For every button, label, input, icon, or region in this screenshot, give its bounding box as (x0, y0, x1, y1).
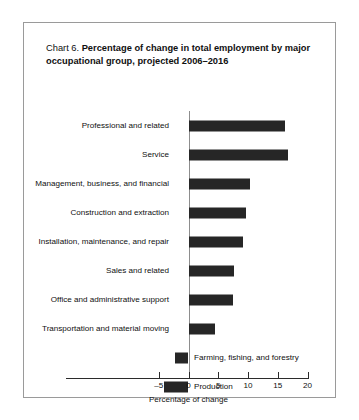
category-label: Farming, fishing, and forestry (194, 353, 299, 363)
bar-row: Office and administrative support (24, 285, 337, 314)
bar (189, 265, 234, 276)
plot-area: Percentage of change Professional and re… (24, 23, 337, 399)
bar-row: Sales and related (24, 256, 337, 285)
bar (189, 178, 250, 189)
x-axis-tick (218, 372, 219, 378)
category-label: Professional and related (82, 121, 169, 131)
x-axis-tick (248, 372, 249, 378)
bar (189, 120, 286, 131)
x-axis-tick (278, 372, 279, 378)
bar-row: Installation, maintenance, and repair (24, 227, 337, 256)
x-axis-tick-label: 5 (216, 381, 221, 390)
bar (175, 352, 188, 363)
chart-figure: Chart 6. Percentage of change in total e… (23, 22, 336, 398)
x-axis-tick-label: 15 (273, 381, 282, 390)
category-label: Management, business, and financial (35, 179, 169, 189)
bar (189, 323, 216, 334)
bar-row: Service (24, 140, 337, 169)
x-axis-tick (308, 372, 309, 378)
x-axis-tick-label: 10 (243, 381, 252, 390)
x-axis-tick (159, 372, 160, 378)
bar-row: Production (24, 372, 337, 401)
category-label: Production (194, 382, 233, 392)
x-axis-tick-label: 0 (186, 381, 191, 390)
x-axis-tick (189, 372, 190, 378)
bar (189, 207, 246, 218)
category-label: Installation, maintenance, and repair (39, 237, 169, 247)
category-label: Sales and related (106, 266, 169, 276)
category-label: Transportation and material moving (42, 324, 169, 334)
bar-row: Transportation and material moving (24, 314, 337, 343)
x-axis-tick-label: 20 (303, 381, 312, 390)
bar (189, 236, 244, 247)
bar-row: Construction and extraction (24, 198, 337, 227)
category-label: Service (142, 150, 169, 160)
category-label: Office and administrative support (51, 295, 169, 305)
bar-row: Professional and related (24, 111, 337, 140)
bar (189, 149, 288, 160)
x-axis-tick-label: –5 (154, 381, 163, 390)
bar (164, 381, 189, 392)
bar-row: Farming, fishing, and forestry (24, 343, 337, 372)
bar-row: Management, business, and financial (24, 169, 337, 198)
category-label: Construction and extraction (70, 208, 169, 218)
bar (189, 294, 234, 305)
